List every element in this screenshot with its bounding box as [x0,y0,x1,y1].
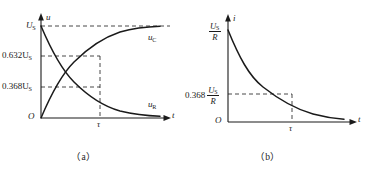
chart-b-ytick-0368usr-denominator: R [207,95,219,105]
chart-a-ytick-us: US [26,21,36,30]
chart-b-ytick-0368usr-numerator-sub: S [214,89,217,95]
chart-b-ytick-usr-fraction: US R [209,22,221,42]
chart-a-curve-label-uc: uC [148,33,157,42]
chart-a-curve-label-ur: uR [148,100,157,109]
chart-a-caption: （a） [0,149,183,163]
chart-a-curve-label-uc-sub: C [152,36,156,43]
chart-a-curve-ur [41,26,160,116]
chart-a-curve-uc [41,26,160,118]
chart-b-x-axis-label: t [358,115,361,124]
chart-b-x-axis-arrow [350,119,358,125]
figure-container: u t O τ US 0.632US 0.368US uC uR （a） [0,0,366,169]
chart-panel-a: u t O τ US 0.632US 0.368US uC uR （a） [0,0,183,169]
chart-a-x-axis-arrow [164,115,172,121]
chart-b-ytick-usr: US R [209,22,221,42]
chart-a-origin-label: O [28,112,35,121]
chart-b-ytick-0368usr-row: 0.368 US R [185,86,219,106]
chart-b-ytick-usr-numerator: US [209,22,221,31]
chart-b-ytick-0368usr-coefficient: 0.368 [185,91,205,100]
chart-b-y-axis-arrow [225,14,231,22]
chart-a-curve-label-ur-sub: R [152,103,156,110]
chart-a-y-axis-label: u [46,13,51,22]
chart-a-ytick-us-sub: S [32,24,35,31]
chart-a-ytick-0632: 0.632US [2,51,32,60]
chart-panel-b: i t O τ US R 0.368 US R （b） [183,0,366,169]
chart-a-ytick-0368-sub: S [28,85,31,92]
chart-a-ytick-0632-sub: S [28,54,31,61]
chart-b-caption: （b） [183,149,366,163]
chart-a-x-axis-label: t [172,111,175,120]
chart-b-origin-label: O [215,116,222,125]
chart-b-ytick-0368usr-numerator: US [207,86,219,95]
chart-b-y-axis-label: i [233,14,236,23]
chart-b-ytick-0368usr: 0.368 US R [185,86,219,106]
chart-b-tau-label: τ [289,124,292,133]
chart-b-ytick-usr-denominator: R [209,31,221,41]
chart-a-ytick-0368: 0.368US [2,82,32,91]
chart-b-ytick-0368usr-fraction: US R [207,86,219,106]
chart-b-ytick-usr-numerator-sub: S [216,25,219,31]
chart-a-tau-label: τ [97,120,100,129]
chart-b-curve-i [228,30,344,119]
chart-a-y-axis-arrow [38,13,44,21]
